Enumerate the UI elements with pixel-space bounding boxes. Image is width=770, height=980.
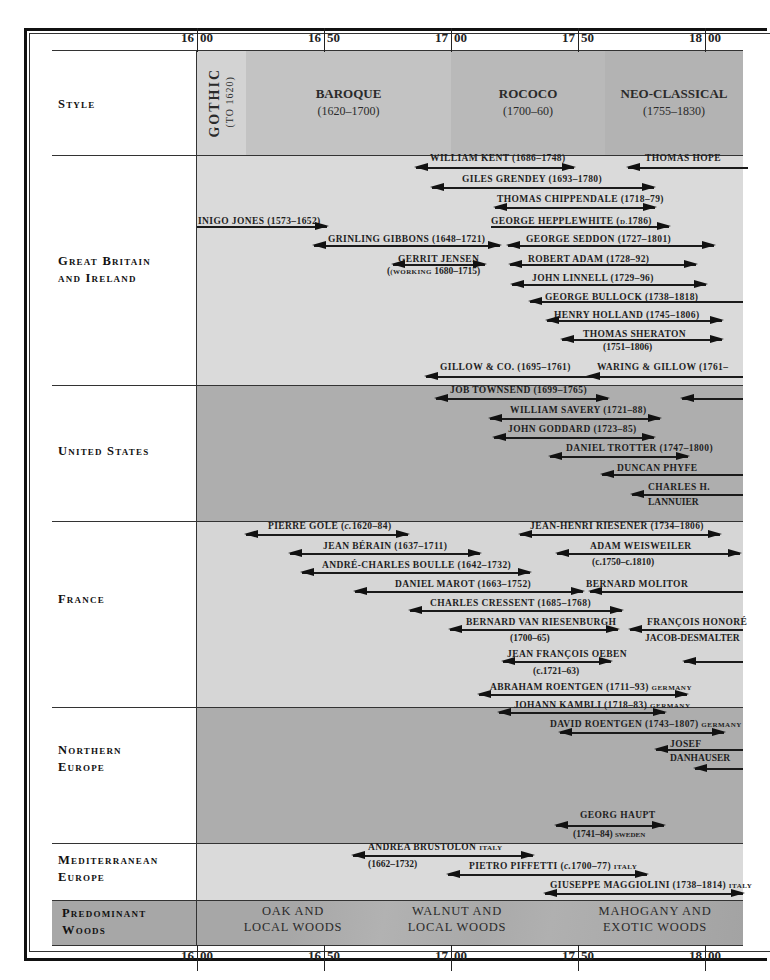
lifespan-arrow [355, 591, 583, 592]
maker-label: GRINLING GIBBONS (1648–1721) [328, 234, 485, 244]
row-label-united-states: United States [58, 443, 194, 460]
lifespan-arrow [656, 749, 743, 750]
lifespan-arrow [302, 572, 530, 573]
style-rococo-name: ROCOCO [499, 86, 558, 102]
maker-sublabel: (1662–1732) [368, 859, 417, 869]
maker-label: GILES GRENDEY (1693–1780) [462, 174, 602, 184]
divider [52, 155, 743, 156]
lifespan-arrow [630, 629, 743, 630]
lifespan-arrow [479, 694, 687, 695]
lifespan-arrow [530, 301, 743, 302]
row-label-great-britain: Great Britainand Ireland [58, 253, 194, 287]
lifespan-arrow [490, 418, 660, 419]
lifespan-arrow [550, 456, 688, 457]
maker-label: ABRAHAM ROENTGEN (1711–93) GERMANY [490, 682, 692, 692]
lifespan-arrow [602, 474, 743, 475]
lifespan-arrow [588, 376, 743, 377]
lifespan-arrow [197, 226, 327, 227]
lifespan-arrow [436, 398, 608, 399]
wood-walnut: WALNUT ANDLOCAL WOODS [392, 903, 522, 935]
maker-label: DANIEL TROTTER (1747–1800) [566, 443, 713, 453]
style-neoclassical-dates: (1755–1830) [643, 104, 705, 119]
maker-label: JOB TOWNSEND (1699–1765) [450, 385, 587, 395]
maker-label: PIETRO PIFFETTI (c.1700–77) ITALY [469, 861, 637, 871]
maker-label: CHARLES CRESSENT (1685–1768) [430, 598, 591, 608]
lifespan-arrow [632, 494, 743, 495]
style-neoclassical: NEO-CLASSICAL (1755–1830) [605, 50, 743, 155]
lifespan-arrow [562, 339, 722, 340]
maker-label: WARING & GILLOW (1761– [597, 362, 728, 372]
maker-label: THOMAS SHERATON [583, 329, 686, 339]
maker-label: JOHN LINNELL (1729–96) [532, 273, 654, 283]
lifespan-arrow [684, 661, 743, 662]
style-gothic-name: GOTHIC [207, 68, 222, 138]
maker-label: THOMAS HOPE [645, 153, 721, 163]
maker-label: BERNARD VAN RIESENBURGH [466, 617, 616, 627]
lifespan-arrow [556, 825, 664, 826]
row-label-france: France [58, 591, 194, 608]
maker-label: GILLOW & CO. (1695–1761) [440, 362, 571, 372]
row-label-woods: PredominantWoods [62, 905, 198, 939]
lifespan-arrow [495, 207, 655, 208]
maker-label: ADAM WEISWEILER [590, 541, 692, 551]
maker-label: WILLIAM KENT (1686–1748) [430, 153, 566, 163]
maker-label: DANIEL MAROT (1663–1752) [395, 579, 531, 589]
maker-label: JOSEF [670, 739, 702, 749]
maker-label: GEORGE SEDDON (1727–1801) [526, 234, 671, 244]
maker-label: ROBERT ADAM (1728–92) [528, 254, 649, 264]
maker-label: WILLIAM SAVERY (1721–88) [510, 405, 646, 415]
lifespan-arrow [499, 712, 665, 713]
maker-sublabel: (c.1750–c.1810) [592, 557, 654, 567]
maker-sublabel: (c.1721–63) [533, 666, 579, 676]
lifespan-arrow [510, 264, 696, 265]
maker-label: THOMAS CHIPPENDALE (1718–79) [497, 194, 664, 204]
lifespan-arrow [520, 534, 720, 535]
maker-label: CHARLES H. [648, 482, 710, 492]
maker-sublabel: JACOB-DESMALTER [645, 633, 740, 643]
lifespan-arrow [416, 167, 574, 168]
maker-label: ANDRÉ-CHARLES BOULLE (1642–1732) [322, 560, 511, 570]
maker-label: HENRY HOLLAND (1745–1806) [554, 310, 699, 320]
lifespan-arrow [432, 187, 654, 188]
maker-label: JOHN GODDARD (1723–85) [508, 424, 637, 434]
label-column-divider [196, 50, 197, 945]
style-rococo-dates: (1700–60) [503, 104, 553, 119]
lifespan-arrow [353, 855, 533, 856]
lifespan-arrow [512, 284, 706, 285]
maker-label: GERRIT JENSEN [398, 254, 479, 264]
lifespan-arrow [290, 553, 480, 554]
lifespan-arrow [547, 320, 722, 321]
lifespan-arrow [557, 553, 740, 554]
maker-label: PIERRE GOLE (c.1620–84) [268, 521, 392, 531]
maker-label: GEORGE HEPPLEWHITE (D.1786) [491, 216, 652, 226]
top-axis: 1600 1650 1700 1750 1800 [0, 28, 743, 52]
style-rococo: ROCOCO (1700–60) [451, 50, 606, 155]
lifespan-arrow [314, 245, 500, 246]
maker-label: JEAN BÉRAIN (1637–1711) [323, 541, 447, 551]
lifespan-arrow [508, 245, 714, 246]
row-label-style: Style [58, 96, 194, 113]
lifespan-arrow [503, 661, 611, 662]
maker-label: FRANÇOIS HONORÉ [647, 617, 747, 627]
maker-sublabel: (1751–1806) [603, 342, 652, 352]
maker-label: GIUSEPPE MAGGIOLINI (1738–1814) ITALY [550, 880, 752, 890]
maker-label: ANDREA BRUSTOLON ITALY [368, 842, 503, 852]
wood-mahogany: MAHOGANY ANDEXOTIC WOODS [580, 903, 730, 935]
lifespan-arrow [426, 376, 594, 377]
lifespan-arrow [450, 629, 618, 630]
maker-sublabel: DANHAUSER [670, 753, 730, 763]
lifespan-arrow [410, 610, 622, 611]
lifespan-arrow [494, 437, 654, 438]
lifespan-arrow [560, 732, 724, 733]
maker-label: JEAN-HENRI RIESENER (1734–1806) [530, 521, 704, 531]
maker-sublabel: (1700–65) [510, 633, 550, 643]
divider [52, 385, 743, 386]
style-gothic-dates: (TO 1620) [224, 76, 235, 127]
lifespan-arrow [491, 226, 669, 227]
wood-oak: OAK ANDLOCAL WOODS [228, 903, 358, 935]
row-label-northern-europe: NorthernEurope [58, 742, 194, 776]
row-label-mediterranean: MediterraneanEurope [58, 852, 194, 886]
lifespan-arrow [628, 167, 748, 168]
lifespan-arrow [682, 398, 743, 399]
style-baroque-dates: (1620–1700) [318, 104, 380, 119]
